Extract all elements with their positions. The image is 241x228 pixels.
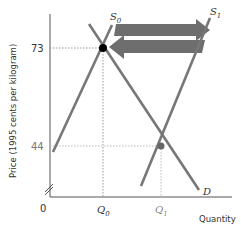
d-label: D — [202, 186, 211, 197]
supply-demand-chart: 73 44 0 Q0 Q1 Quantity Price (1995 cents… — [0, 0, 241, 228]
arrow-left-icon — [109, 35, 205, 59]
x-tick-q1: Q1 — [155, 204, 168, 218]
equilibrium-point-1 — [158, 143, 165, 150]
s1-label: S1 — [210, 6, 221, 20]
axis-break-icon — [45, 184, 53, 195]
x-axis-title: Quantity — [199, 214, 236, 224]
s0-label: S0 — [110, 11, 122, 25]
equilibrium-point-0 — [99, 44, 107, 52]
arrow-right-icon — [114, 19, 210, 41]
origin-label: 0 — [40, 203, 46, 214]
y-axis-title: Price (1995 cents per kilogram) — [8, 44, 18, 178]
y-tick-44: 44 — [31, 141, 44, 152]
x-tick-q0: Q0 — [97, 204, 110, 218]
y-tick-73: 73 — [31, 43, 44, 54]
